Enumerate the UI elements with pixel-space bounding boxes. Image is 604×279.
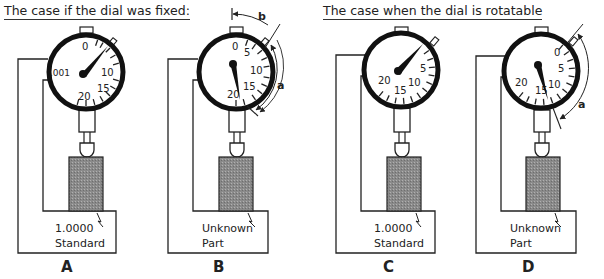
base-label-a: 1.0000 Standard [55, 221, 105, 251]
panel-letter-c: C [383, 258, 394, 276]
dial-label: 0 [554, 47, 560, 58]
panel-a: 0 10 15 20 .001 [18, 27, 123, 253]
panel-letter-a: A [61, 258, 73, 276]
dial-label: 0 [82, 41, 88, 52]
arc-label-a: a [578, 98, 585, 111]
base-label-line2: Part [202, 236, 253, 251]
dial-label: 5 [244, 47, 250, 58]
panel-b: 0 5 10 15 20 b a [168, 8, 284, 253]
panel-d: 0 5 10 15 20 a [476, 24, 589, 253]
dial-unit-label: .001 [50, 68, 70, 78]
dial-label: 10 [250, 65, 263, 76]
base-label-line2: Part [510, 236, 561, 251]
dial-label: 10 [408, 77, 421, 88]
arc-label-a: a [277, 79, 284, 92]
panel-letter-b: B [213, 258, 224, 276]
dial-label: 10 [101, 67, 114, 78]
dial-label: 20 [515, 77, 528, 88]
dial-label: 0 [232, 41, 238, 52]
base-label-line1: Unknown [202, 221, 253, 236]
dial-label: 5 [558, 63, 564, 74]
base-label-d: Unknown Part [510, 221, 561, 251]
dial-label: 10 [548, 79, 561, 90]
dial-label: 20 [78, 91, 91, 102]
base-label-line1: Unknown [510, 221, 561, 236]
dial-label: 15 [97, 83, 110, 94]
panel-letter-d: D [522, 258, 534, 276]
base-label-b: Unknown Part [202, 221, 253, 251]
base-label-c: 1.0000 Standard [374, 221, 424, 251]
base-label-line2: Standard [374, 236, 424, 251]
dial-label: 15 [394, 85, 407, 96]
dial-label: 5 [420, 63, 426, 74]
base-label-line1: 1.0000 [55, 221, 105, 236]
dial-label: 15 [243, 81, 256, 92]
arc-label-b: b [258, 10, 266, 23]
base-label-line1: 1.0000 [374, 221, 424, 236]
dial-label: 20 [378, 75, 391, 86]
base-label-line2: Standard [55, 236, 105, 251]
panel-c: 5 10 15 20 [336, 27, 439, 253]
